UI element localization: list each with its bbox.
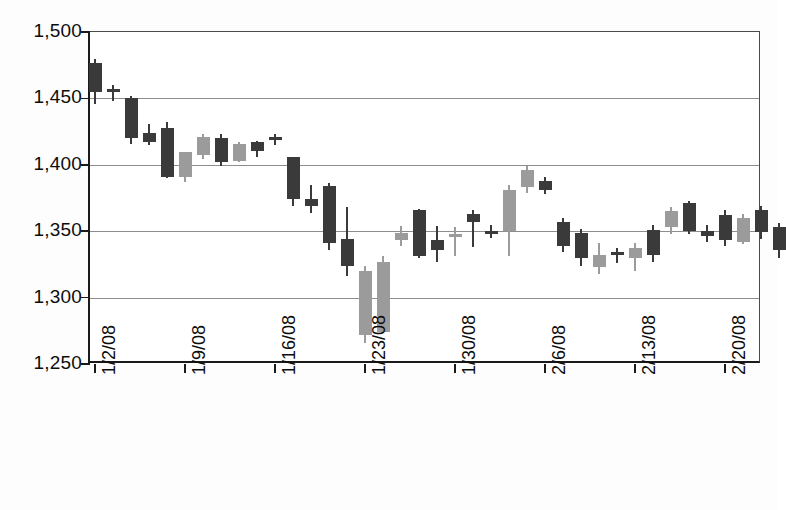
candle <box>179 152 192 183</box>
candle-body <box>233 144 246 161</box>
candle <box>197 134 210 159</box>
candle-wick <box>454 227 456 256</box>
x-axis-tick-label: 1/2/08 <box>100 325 118 375</box>
candle-body <box>503 190 516 231</box>
candle-body <box>197 137 210 156</box>
gridline <box>90 298 759 299</box>
candle <box>89 59 102 104</box>
candle-body <box>521 170 534 187</box>
candle <box>485 225 498 238</box>
plot-area <box>88 31 760 363</box>
candle <box>665 207 678 234</box>
candle-body <box>629 248 642 257</box>
candle <box>593 243 606 274</box>
y-axis-tick <box>81 230 90 232</box>
candle <box>629 243 642 271</box>
candle <box>467 210 480 247</box>
candle-body <box>773 227 786 250</box>
candle <box>539 177 552 194</box>
candle <box>503 185 516 257</box>
y-axis-tick-label: 1,250 <box>8 353 82 372</box>
candle-body <box>269 137 282 140</box>
candle <box>341 207 354 276</box>
candle <box>647 225 660 262</box>
candle <box>305 185 318 213</box>
candle-body <box>179 152 192 177</box>
candle <box>683 201 696 234</box>
candle-body <box>737 218 750 242</box>
candle-body <box>89 63 102 92</box>
y-axis-tick-label: 1,500 <box>8 21 82 40</box>
candle-wick <box>112 85 114 101</box>
candle-body <box>683 203 696 231</box>
candle <box>737 214 750 245</box>
candle-body <box>287 157 300 199</box>
y-axis-tick-label: 1,400 <box>8 154 82 173</box>
y-axis-tick-label: 1,350 <box>8 220 82 239</box>
candle <box>701 225 714 242</box>
candle-body <box>413 210 426 256</box>
candle-body <box>161 128 174 177</box>
candle-body <box>575 233 588 258</box>
candle-body <box>593 255 606 267</box>
candle-body <box>431 240 444 249</box>
candle-body <box>395 233 408 241</box>
candle <box>611 248 624 263</box>
candle <box>449 227 462 256</box>
candle <box>755 206 768 239</box>
candle-body <box>125 98 138 138</box>
candle-body <box>701 231 714 236</box>
x-axis-tick <box>724 364 726 373</box>
x-axis-tick-label: 1/30/08 <box>460 315 478 375</box>
candle <box>557 218 570 253</box>
candle <box>107 85 120 101</box>
x-axis-tick <box>94 364 96 373</box>
y-axis-labels: 1,5001,4501,4001,3501,3001,250 <box>0 0 82 510</box>
candle <box>287 157 300 206</box>
candle-wick <box>616 248 618 263</box>
candle <box>395 226 408 246</box>
x-axis-tick <box>634 364 636 373</box>
candle-body <box>467 214 480 222</box>
candle-body <box>665 211 678 227</box>
x-axis-tick <box>274 364 276 373</box>
x-axis-tick-label: 2/20/08 <box>730 315 748 375</box>
y-axis-tick <box>81 363 90 365</box>
candle <box>773 223 786 258</box>
y-axis-tick <box>81 31 90 33</box>
candle-body <box>719 215 732 240</box>
candle-body <box>215 138 228 162</box>
candle <box>413 209 426 258</box>
candle-body <box>557 222 570 246</box>
candle <box>719 210 732 246</box>
x-axis-tick-label: 2/6/08 <box>550 325 568 375</box>
x-axis-tick-label: 2/13/08 <box>640 315 658 375</box>
candle-body <box>539 181 552 190</box>
candle-body <box>755 210 768 233</box>
candle-body <box>611 252 624 255</box>
candle <box>161 122 174 178</box>
y-axis-tick-label: 1,450 <box>8 87 82 106</box>
candle-body <box>449 234 462 237</box>
x-axis-tick <box>454 364 456 373</box>
x-axis-tick-label: 1/9/08 <box>190 325 208 375</box>
candle <box>575 229 588 266</box>
x-axis-tick <box>184 364 186 373</box>
candle-body <box>647 230 660 255</box>
y-axis-tick <box>81 297 90 299</box>
y-axis-tick-label: 1,300 <box>8 287 82 306</box>
candle <box>251 141 264 157</box>
candle-body <box>143 133 156 142</box>
x-axis-tick-label: 1/16/08 <box>280 315 298 375</box>
candle <box>125 96 138 144</box>
candle <box>323 183 336 249</box>
candle-body <box>305 199 318 206</box>
candle <box>143 124 156 145</box>
candle-body <box>323 186 336 243</box>
gridline <box>90 98 759 99</box>
y-axis-tick <box>81 164 90 166</box>
candle <box>431 226 444 262</box>
candle-body <box>251 142 264 151</box>
candle-body <box>341 239 354 266</box>
